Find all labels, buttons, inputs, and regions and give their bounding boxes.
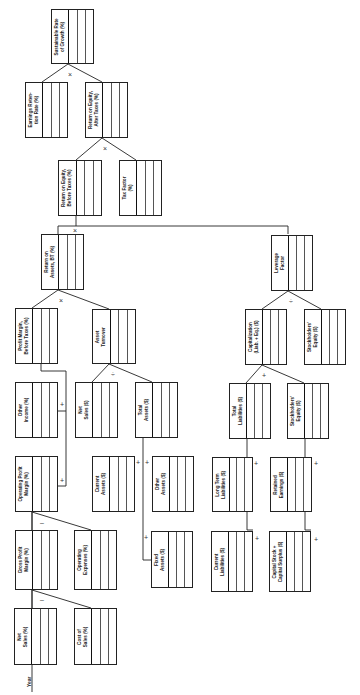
- node-asset-turnover: Asset Turnover: [92, 309, 136, 364]
- node-other-income: Other Income (%): [15, 382, 58, 438]
- node-cost-of-sales: Cost of Sales (%): [74, 608, 117, 665]
- node-label: Stockholders' Equity ($): [290, 396, 302, 426]
- node-label: Earnings Reten- tion Rate (%): [28, 92, 40, 127]
- minus-operator: –: [40, 519, 44, 526]
- node-label: Tax Factor (%): [122, 177, 134, 200]
- node-label: Asset Turnover: [95, 327, 107, 347]
- node-total-liabilities: Total Liabilities ($): [229, 383, 271, 439]
- node-return-on-assets-bt: Return on Assets, BT (%): [41, 234, 84, 290]
- node-stockholders-equity-bottom: Stockholders' Equity ($): [287, 383, 329, 439]
- node-retained-earnings: Retained Earnings ($): [270, 457, 312, 512]
- multiply-operator: ×: [68, 71, 72, 78]
- node-net-sales-percent: Net Sales (%): [14, 608, 57, 665]
- node-label: Other Income (%): [18, 398, 30, 423]
- node-label: Sustainable Rate of Growth (%): [54, 18, 66, 55]
- divide-operator: ÷: [289, 298, 293, 305]
- node-label: Return on Assets, BT (%): [44, 246, 56, 278]
- node-other-assets: Other Assets ($): [152, 456, 194, 512]
- multiply-operator: ×: [103, 145, 107, 152]
- node-return-on-equity-after-taxes: Return on Equity, After Taxes (%): [85, 82, 128, 138]
- node-label: Operating Expenses (%): [77, 545, 89, 575]
- plus-operator: +: [314, 460, 318, 467]
- multiply-operator: ×: [59, 297, 63, 304]
- node-current-assets: Current Assets ($): [92, 456, 135, 512]
- multiply-operator: ×: [73, 227, 77, 234]
- plus-operator: +: [136, 459, 140, 466]
- node-label: Operating Profit Margin (%): [18, 467, 30, 502]
- node-label: Return on Equity, After Taxes (%): [88, 91, 100, 129]
- node-tax-factor: Tax Factor (%): [119, 160, 162, 216]
- node-total-assets: Total Assets ($): [135, 382, 178, 438]
- node-label: Capitalization (Liab. + Eq.) ($): [248, 320, 260, 353]
- minus-operator: –: [40, 596, 44, 603]
- node-gross-profit-margin: Gross Profit Margin (%): [15, 530, 58, 590]
- divide-operator: ÷: [111, 371, 115, 378]
- node-label: Net Sales (%): [17, 626, 29, 646]
- year-axis-label: Year: [26, 676, 32, 687]
- plus-operator: +: [254, 460, 258, 467]
- node-label: Total Assets ($): [138, 399, 150, 421]
- node-label: Other Assets ($): [155, 473, 167, 495]
- node-earnings-retention-rate: Earnings Reten- tion Rate (%): [25, 82, 68, 138]
- plus-operator: +: [145, 459, 149, 466]
- plus-operator: +: [60, 401, 64, 408]
- node-profit-margin-before-taxes: Profit Margin, Before Taxes (%): [15, 308, 58, 364]
- node-label: Fixed Assets ($): [154, 549, 166, 571]
- node-label: Capital Stock + Capital Surplus ($): [272, 541, 284, 582]
- node-label: Current Assets ($): [95, 473, 107, 495]
- node-label: Stockholders' Equity ($): [307, 322, 319, 352]
- plus-operator: +: [60, 477, 64, 484]
- node-current-liabilities: Current Liabilities ($): [211, 531, 253, 592]
- node-label: Current Liabilities ($): [214, 547, 226, 575]
- node-operating-profit-margin: Operating Profit Margin (%): [15, 456, 58, 512]
- node-net-sales-dollars: Net Sales ($): [75, 382, 118, 438]
- node-label: Retained Earnings ($): [273, 471, 285, 498]
- node-stockholders-equity-top: Stockholders' Equity ($): [304, 309, 346, 365]
- node-capital-stock-surplus: Capital Stock + Capital Surplus ($): [269, 531, 311, 592]
- node-fixed-assets: Fixed Assets ($): [151, 531, 193, 588]
- node-sustainable-rate-of-growth: Sustainable Rate of Growth (%): [51, 9, 94, 64]
- node-label: Long Term Liabilities ($): [215, 470, 227, 498]
- node-leverage-factor: Leverage Factor: [271, 235, 313, 291]
- node-label: Return on Equity, Before Taxes (%): [61, 169, 73, 207]
- node-label: Total Liabilities ($): [232, 397, 244, 425]
- node-label: Leverage Factor: [274, 253, 286, 273]
- node-label: Cost of Sales (%): [77, 626, 89, 646]
- node-label: Profit Margin, Before Taxes (%): [18, 318, 30, 355]
- plus-operator: +: [144, 534, 148, 541]
- node-operating-expenses: Operating Expenses (%): [74, 530, 117, 590]
- node-return-on-equity-before-taxes: Return on Equity, Before Taxes (%): [58, 160, 102, 216]
- node-long-term-liabilities: Long Term Liabilities ($): [212, 457, 253, 512]
- node-label: Gross Profit Margin (%): [18, 547, 30, 574]
- plus-operator: +: [262, 372, 266, 379]
- node-capitalization: Capitalization (Liab. + Eq.) ($): [245, 309, 287, 365]
- plus-operator: +: [255, 535, 259, 542]
- node-label: Net Sales ($): [78, 401, 90, 420]
- plus-operator: +: [314, 536, 318, 543]
